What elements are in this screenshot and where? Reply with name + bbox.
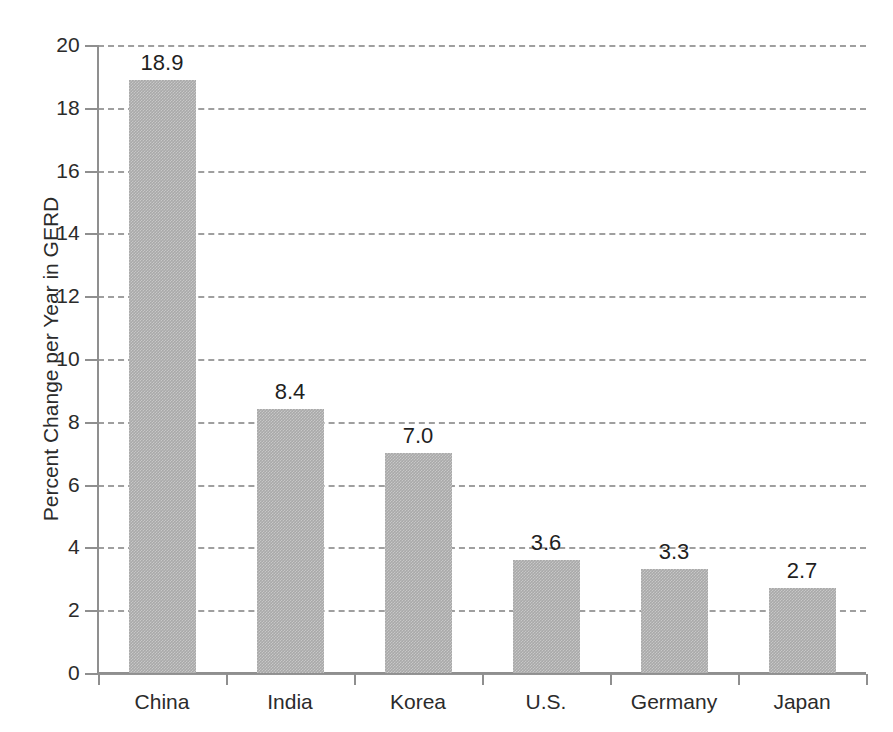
y-axis-tick-label: 8 xyxy=(8,410,80,434)
bar-value-label: 3.3 xyxy=(614,539,734,565)
bar xyxy=(513,560,580,673)
bar xyxy=(769,588,836,673)
x-axis-tick xyxy=(482,674,484,685)
y-axis-tick-label: 0 xyxy=(8,661,80,685)
x-axis-tick xyxy=(354,674,356,685)
y-axis-tick-label: 2 xyxy=(8,598,80,622)
y-axis-tick-label: 6 xyxy=(8,473,80,497)
x-axis-tick xyxy=(610,674,612,685)
bar-value-label: 2.7 xyxy=(742,558,862,584)
x-axis-category-label: Japan xyxy=(732,690,872,714)
x-axis-category-label: China xyxy=(92,690,232,714)
y-axis-tick-label: 4 xyxy=(8,535,80,559)
y-axis-tick-label: 10 xyxy=(8,347,80,371)
y-axis-tick-label: 16 xyxy=(8,159,80,183)
bar-chart: Percent Change per Year in GERD 02468101… xyxy=(0,0,893,732)
bar-value-label: 7.0 xyxy=(358,423,478,449)
bar-value-label: 18.9 xyxy=(102,50,222,76)
x-axis-tick xyxy=(866,674,868,685)
x-axis-category-label: U.S. xyxy=(476,690,616,714)
bar xyxy=(257,409,324,673)
x-axis-category-label: Germany xyxy=(604,690,744,714)
bar xyxy=(129,80,196,673)
y-axis-tick-label: 18 xyxy=(8,96,80,120)
bar-value-label: 8.4 xyxy=(230,379,350,405)
bar xyxy=(641,569,708,673)
x-axis-category-label: Korea xyxy=(348,690,488,714)
x-axis-tick xyxy=(98,674,100,685)
y-axis-tick-label: 12 xyxy=(8,284,80,308)
x-axis-tick xyxy=(738,674,740,685)
x-axis-category-label: India xyxy=(220,690,360,714)
bar xyxy=(385,453,452,673)
y-axis-tick-labels: 02468101214161820 xyxy=(0,0,80,732)
bar-value-label: 3.6 xyxy=(486,530,606,556)
plot-area: 18.98.47.03.63.32.7 xyxy=(98,45,866,673)
y-axis-tick-label: 20 xyxy=(8,33,80,57)
x-axis-tick xyxy=(226,674,228,685)
y-axis-tick-label: 14 xyxy=(8,221,80,245)
